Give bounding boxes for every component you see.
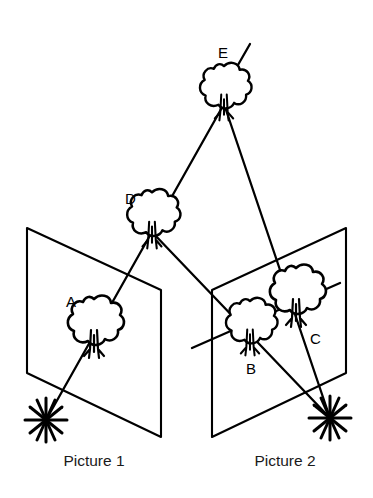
- caption-picture-1: Picture 1: [63, 452, 124, 469]
- point-label-d: D: [125, 190, 136, 207]
- ray-station2-to-e: [224, 104, 330, 418]
- figure-canvas: A B C D E Picture 1 Picture 2: [0, 0, 373, 498]
- point-label-b: B: [246, 360, 256, 377]
- tree-c: [270, 265, 326, 327]
- ray-station1-to-e: [46, 104, 224, 420]
- station-marker-1: [25, 398, 67, 442]
- ray-diagram: A B C D E Picture 1 Picture 2: [0, 0, 373, 498]
- point-label-c: C: [310, 330, 321, 347]
- tree-b: [226, 298, 278, 355]
- tree-a: [68, 296, 124, 358]
- caption-picture-2: Picture 2: [254, 452, 315, 469]
- point-label-e: E: [218, 44, 228, 61]
- point-label-a: A: [66, 293, 76, 310]
